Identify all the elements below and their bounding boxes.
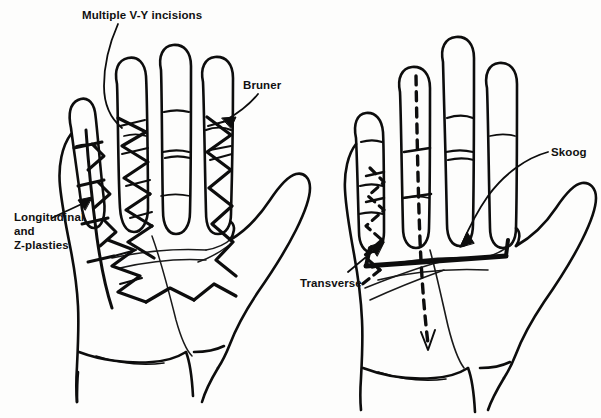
hand-incisions-figure: Multiple V-Y incisions Bruner Longitudin… — [0, 0, 601, 418]
label-transverse: Transverse — [300, 276, 362, 290]
left-hand-outline — [59, 45, 310, 402]
bruner-leader-line — [222, 94, 258, 128]
figure-artwork — [0, 0, 601, 418]
skoog-dashed-midline — [416, 76, 428, 344]
label-multiple-vy-incisions: Multiple V-Y incisions — [82, 8, 202, 22]
label-bruner: Bruner — [243, 78, 281, 92]
vy-leader-line — [104, 24, 122, 128]
label-skoog: Skoog — [551, 145, 587, 159]
label-longitudinal-and-z-plasties: Longitudinal and Z-plasties — [14, 210, 84, 252]
